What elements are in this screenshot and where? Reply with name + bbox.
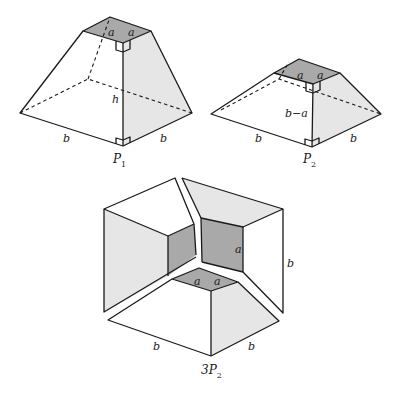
3p2-label-a-right: a: [235, 243, 242, 256]
figure-p1: a a h b b P1: [20, 17, 192, 169]
p1-label-h: h: [112, 93, 119, 106]
p2-label-a-left: a: [297, 69, 304, 82]
p2-label-b-right: b: [350, 132, 357, 145]
p2-label-a-right: a: [317, 69, 324, 82]
p1-right-face: [123, 31, 192, 146]
p1-label-b-left: b: [63, 132, 70, 145]
p1-label-a-right: a: [128, 26, 135, 39]
3p2-label-a-bottom-left: a: [194, 275, 201, 288]
3p2-label-a-bottom-right: a: [214, 275, 221, 288]
3p2-caption: 3P2: [201, 363, 222, 380]
figure-p2: a a b−a b b P2: [211, 59, 381, 169]
3p2-label-b-left: b: [153, 340, 160, 353]
p1-caption: P1: [112, 152, 126, 169]
p2-label-b-left: b: [255, 132, 262, 145]
p1-label-a-left: a: [108, 26, 115, 39]
figure-3p2: a a a b b b 3P2: [104, 178, 294, 380]
dissection-diagram: a a h b b P1 a a b−a b b P2: [0, 0, 399, 396]
3p2-label-b-side: b: [287, 257, 294, 270]
p1-left-face: [20, 31, 123, 146]
3p2-label-b-right: b: [248, 340, 255, 353]
p1-label-b-right: b: [160, 132, 167, 145]
p2-caption: P2: [302, 152, 316, 169]
p2-label-b-minus-a: b−a: [285, 107, 308, 120]
